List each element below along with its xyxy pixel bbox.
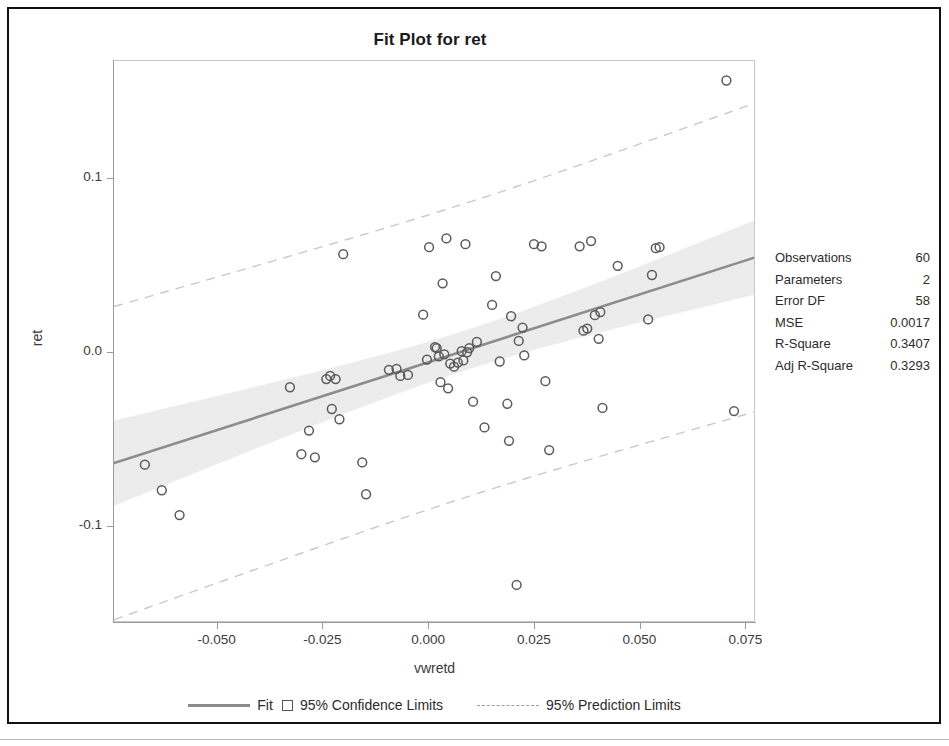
y-tick-mark bbox=[107, 526, 113, 527]
stat-label: Observations bbox=[775, 250, 852, 265]
x-tick-label: 0.075 bbox=[700, 632, 790, 647]
scatter-plot-canvas bbox=[114, 61, 755, 622]
fit-line bbox=[114, 257, 755, 463]
stat-label: Parameters bbox=[775, 272, 842, 287]
plot-legend: Fit 95% Confidence Limits 95% Prediction… bbox=[113, 697, 756, 713]
stat-row: Parameters2 bbox=[775, 272, 930, 294]
stat-row: MSE0.0017 bbox=[775, 315, 930, 337]
fit-statistics-table: Observations60Parameters2Error DF58MSE0.… bbox=[775, 250, 930, 379]
confidence-limits-band bbox=[114, 220, 755, 506]
stat-value: 60 bbox=[916, 250, 930, 265]
x-tick-label: -0.050 bbox=[172, 632, 262, 647]
y-tick-label: 0.0 bbox=[42, 343, 102, 358]
stat-label: Error DF bbox=[775, 293, 825, 308]
stat-label: R-Square bbox=[775, 336, 831, 351]
stat-value: 58 bbox=[916, 293, 930, 308]
legend-item-fit: Fit bbox=[188, 697, 273, 713]
y-tick-mark bbox=[107, 178, 113, 179]
stat-label: MSE bbox=[775, 315, 803, 330]
x-axis-line bbox=[113, 622, 756, 623]
x-tick-label: 0.000 bbox=[383, 632, 473, 647]
x-tick-label: 0.025 bbox=[489, 632, 579, 647]
x-tick-label: 0.050 bbox=[595, 632, 685, 647]
stat-value: 0.3407 bbox=[890, 336, 930, 351]
fit-plot-window: Fit Plot for ret -0.050-0.0250.0000.0250… bbox=[0, 0, 949, 746]
y-tick-label: -0.1 bbox=[42, 517, 102, 532]
stat-value: 0.3293 bbox=[890, 358, 930, 373]
plot-frame bbox=[113, 60, 755, 622]
x-tick-mark bbox=[640, 623, 641, 629]
y-tick-label: 0.1 bbox=[42, 169, 102, 184]
stat-row: Observations60 bbox=[775, 250, 930, 272]
bottom-divider bbox=[0, 739, 949, 740]
x-tick-mark bbox=[322, 623, 323, 629]
legend-item-prediction: 95% Prediction Limits bbox=[477, 697, 681, 713]
y-axis-label: ret bbox=[29, 293, 45, 383]
y-tick-mark bbox=[107, 352, 113, 353]
stat-row: R-Square0.3407 bbox=[775, 336, 930, 358]
stat-row: Adj R-Square0.3293 bbox=[775, 358, 930, 380]
fit-line-swatch-icon bbox=[188, 704, 250, 707]
legend-item-confidence: 95% Confidence Limits bbox=[282, 697, 443, 713]
x-tick-mark bbox=[428, 623, 429, 629]
prediction-band-swatch-icon bbox=[477, 705, 539, 706]
legend-label-prediction: 95% Prediction Limits bbox=[546, 697, 681, 713]
page-title: Fit Plot for ret bbox=[0, 30, 860, 50]
plot-area bbox=[113, 60, 755, 622]
x-tick-label: -0.025 bbox=[277, 632, 367, 647]
stat-row: Error DF58 bbox=[775, 293, 930, 315]
legend-label-fit: Fit bbox=[257, 697, 273, 713]
x-tick-mark bbox=[745, 623, 746, 629]
stat-value: 2 bbox=[923, 272, 930, 287]
legend-label-confidence: 95% Confidence Limits bbox=[300, 697, 443, 713]
stat-label: Adj R-Square bbox=[775, 358, 853, 373]
scatter-points bbox=[140, 76, 738, 589]
x-axis-label: vwretd bbox=[113, 660, 756, 676]
confidence-band-swatch-icon bbox=[282, 700, 293, 711]
stat-value: 0.0017 bbox=[890, 315, 930, 330]
x-tick-mark bbox=[217, 623, 218, 629]
y-axis-line bbox=[113, 60, 114, 623]
y-axis-tick-labels: -0.10.00.1 bbox=[40, 0, 102, 746]
x-tick-mark bbox=[534, 623, 535, 629]
